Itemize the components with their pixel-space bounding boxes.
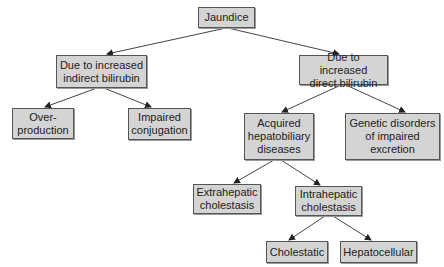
node-hepatocellular: Hepatocellular [340, 241, 417, 263]
node-acquired-hepatobiliary-diseases: Acquired hepatobiliary diseases [244, 113, 314, 160]
edge-acquired-extrahepatic [234, 160, 274, 183]
edge-intrahepatic-cholestatic [289, 216, 325, 240]
edge-indirect-overproduction [45, 88, 97, 107]
node-increased-direct-bilirubin: Due to increased direct bilirubin [299, 55, 388, 85]
node-overproduction: Over- production [12, 108, 74, 139]
edge-indirect-impaired-conjugation [104, 88, 151, 107]
jaundice-flowchart: Jaundice Due to increased indirect bilir… [0, 0, 444, 267]
node-genetic-disorders: Genetic disorders of impaired excretion [345, 113, 440, 160]
node-intrahepatic-cholestasis: Intrahepatic cholestasis [295, 186, 362, 216]
edge-acquired-intrahepatic [281, 160, 320, 185]
node-cholestatic: Cholestatic [266, 241, 328, 263]
edge-jaundice-indirect [107, 28, 226, 54]
node-impaired-conjugation: Impaired conjugation [128, 108, 191, 140]
edge-intrahepatic-hepatocellular [333, 216, 371, 240]
node-extrahepatic-cholestasis: Extrahepatic cholestasis [193, 184, 261, 214]
node-jaundice: Jaundice [198, 7, 255, 28]
node-increased-indirect-bilirubin: Due to increased indirect bilirubin [56, 55, 147, 88]
